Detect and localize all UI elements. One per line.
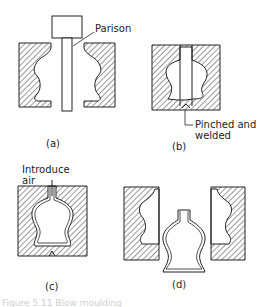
panel-a: Parison (a) bbox=[19, 16, 131, 149]
die-head bbox=[52, 16, 82, 38]
panel-c: Introduce air (c) bbox=[18, 164, 87, 292]
figure-caption: Figure 5.11 Blow moulding bbox=[2, 298, 122, 307]
panel-b-label: (b) bbox=[172, 141, 186, 152]
bottle-outer bbox=[163, 210, 205, 272]
parison-label: Parison bbox=[95, 23, 131, 34]
mold-half-right bbox=[84, 43, 115, 107]
parison bbox=[62, 38, 72, 111]
pinched-label-line1: Pinched and bbox=[195, 119, 256, 130]
mold-closed-inflated bbox=[18, 186, 87, 256]
mold-half-left bbox=[19, 43, 51, 107]
mold-half-right-open bbox=[211, 187, 245, 260]
panel-c-label: (c) bbox=[45, 281, 58, 292]
mold-closed bbox=[152, 45, 220, 110]
pinch-leader bbox=[185, 110, 193, 125]
mold-half-left-open bbox=[124, 187, 159, 260]
panel-b: Pinched and welded (b) bbox=[152, 45, 256, 152]
introduce-air-line2: air bbox=[22, 175, 36, 186]
panel-d-label: (d) bbox=[172, 279, 186, 290]
blow-moulding-diagram: Parison (a) Pinched and welded (b) Intro… bbox=[0, 0, 273, 307]
pinched-label-line2: welded bbox=[195, 130, 231, 141]
panel-a-label: (a) bbox=[46, 138, 60, 149]
introduce-air-line1: Introduce bbox=[22, 164, 70, 175]
panel-d: (d) bbox=[124, 187, 245, 290]
